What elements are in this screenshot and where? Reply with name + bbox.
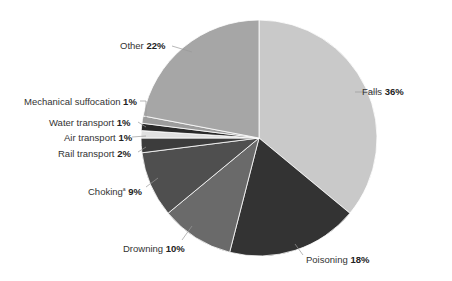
label-mechanical-suffocation: Mechanical suffocation 1% <box>24 96 137 107</box>
label-drowning: Drowning 10% <box>123 243 185 254</box>
label-other: Other 22% <box>120 40 165 51</box>
label-air-transport: Air transport 1% <box>64 132 132 143</box>
label-water-transport: Water transport 1% <box>49 117 131 128</box>
label-falls: Falls 36% <box>362 86 404 97</box>
label-rail-transport: Rail transport 2% <box>58 148 131 159</box>
pie-slices <box>141 20 377 256</box>
label-choking: Chokinga 9% <box>88 184 142 197</box>
label-poisoning: Poisoning 18% <box>306 254 369 265</box>
